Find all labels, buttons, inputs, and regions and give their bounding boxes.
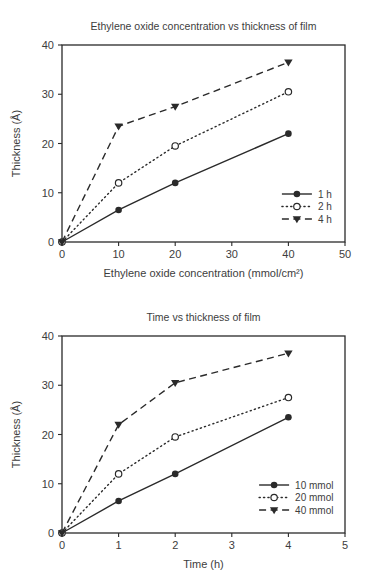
x-tick-label: 4 — [285, 539, 291, 551]
x-tick-label: 1 — [116, 539, 122, 551]
legend-20-mmol-marker-circle-open — [271, 494, 277, 500]
legend-40-mmol-marker-triangle-down — [270, 507, 278, 514]
y-axis-label: Thickness (Å) — [10, 401, 22, 468]
series-20-mmol-marker-circle-open — [115, 471, 121, 477]
series-20-mmol-marker-circle-open — [285, 394, 291, 400]
series-10-mmol-marker-circle-filled — [285, 414, 292, 421]
y-tick-label: 40 — [42, 330, 54, 342]
chart-title: Ethylene oxide concentration vs thicknes… — [91, 20, 317, 32]
legend-2-h-marker-circle-open — [294, 203, 300, 209]
page: Ethylene oxide concentration vs thicknes… — [0, 0, 366, 582]
y-tick-label: 10 — [42, 187, 54, 199]
series-40-mmol-marker-triangle-down — [171, 380, 179, 387]
y-tick-label: 20 — [42, 138, 54, 150]
series-2-h-line — [62, 92, 288, 242]
legend-4-h-label: 4 h — [318, 214, 332, 225]
chart-ethylene-oxide-vs-thickness-svg: Ethylene oxide concentration vs thicknes… — [0, 0, 366, 291]
x-tick-label: 0 — [59, 248, 65, 260]
plot-frame — [62, 336, 345, 533]
x-tick-label: 30 — [226, 248, 238, 260]
series-10-mmol-marker-circle-filled — [172, 471, 179, 478]
x-tick-label: 40 — [282, 248, 294, 260]
legend-2-h-label: 2 h — [318, 201, 332, 212]
chart-ethylene-oxide-vs-thickness: Ethylene oxide concentration vs thicknes… — [0, 0, 366, 291]
chart-title: Time vs thickness of film — [147, 311, 261, 323]
y-tick-label: 30 — [42, 88, 54, 100]
series-1-h-line — [62, 134, 288, 242]
chart-time-vs-thickness: Time vs thickness of film012345010203040… — [0, 291, 366, 582]
legend-40-mmol-label: 40 mmol — [295, 505, 333, 516]
x-tick-label: 3 — [229, 539, 235, 551]
legend-10-mmol-label: 10 mmol — [295, 480, 333, 491]
x-axis-label: Time (h) — [183, 558, 224, 570]
series-1-h-marker-circle-filled — [172, 180, 179, 187]
x-tick-label: 10 — [112, 248, 124, 260]
x-tick-label: 20 — [169, 248, 181, 260]
series-1-h-marker-circle-filled — [285, 130, 292, 137]
y-tick-label: 0 — [48, 236, 54, 248]
series-2-h-marker-circle-open — [172, 143, 178, 149]
series-20-mmol-marker-circle-open — [172, 434, 178, 440]
series-4-h-marker-triangle-down — [284, 59, 292, 66]
series-10-mmol-marker-circle-filled — [115, 498, 122, 505]
series-2-h-marker-circle-open — [285, 89, 291, 95]
legend-20-mmol-label: 20 mmol — [295, 492, 333, 503]
legend-1-h-label: 1 h — [318, 189, 332, 200]
plot-frame — [62, 45, 345, 242]
x-tick-label: 0 — [59, 539, 65, 551]
x-tick-label: 50 — [339, 248, 351, 260]
series-20-mmol-line — [62, 398, 288, 533]
y-tick-label: 30 — [42, 379, 54, 391]
series-40-mmol-marker-triangle-down — [114, 422, 122, 429]
series-1-h-marker-circle-filled — [115, 207, 122, 214]
y-tick-label: 10 — [42, 478, 54, 490]
y-tick-label: 0 — [48, 527, 54, 539]
series-2-h-marker-circle-open — [115, 180, 121, 186]
series-4-h-line — [62, 62, 288, 242]
y-axis-label: Thickness (Å) — [10, 110, 22, 177]
series-40-mmol-marker-triangle-down — [284, 350, 292, 357]
legend-10-mmol-marker-circle-filled — [271, 482, 278, 489]
x-tick-label: 5 — [342, 539, 348, 551]
series-4-h-marker-triangle-down — [114, 123, 122, 130]
x-tick-label: 2 — [172, 539, 178, 551]
y-tick-label: 20 — [42, 429, 54, 441]
chart-time-vs-thickness-svg: Time vs thickness of film012345010203040… — [0, 291, 366, 582]
y-tick-label: 40 — [42, 39, 54, 51]
legend-1-h-marker-circle-filled — [294, 191, 301, 198]
x-axis-label: Ethylene oxide concentration (mmol/cm²) — [104, 267, 304, 279]
